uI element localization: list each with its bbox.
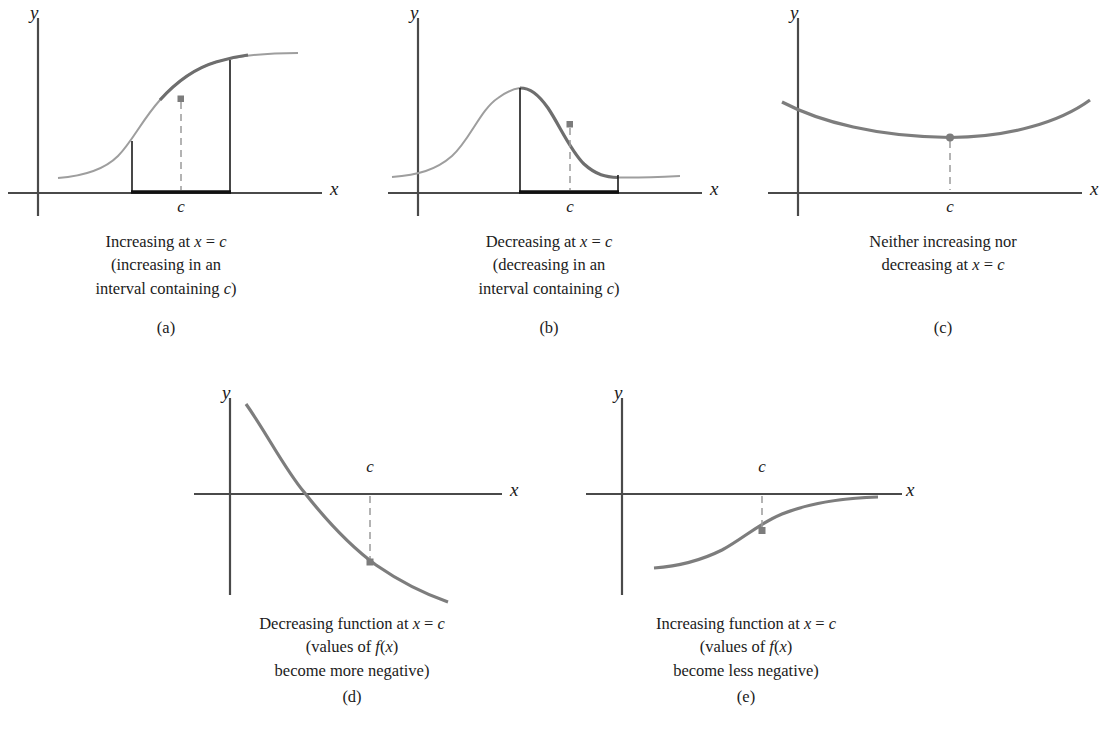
c-label: c bbox=[752, 457, 772, 477]
curve-parabola bbox=[782, 100, 1090, 138]
panel-e: y x c Increasing function at x = c (valu… bbox=[572, 380, 952, 743]
x-axis-label: x bbox=[710, 178, 718, 200]
c-label: c bbox=[940, 197, 960, 217]
curve-increasing bbox=[654, 497, 878, 568]
curve-bold-segment bbox=[160, 55, 248, 100]
point-marker bbox=[946, 134, 954, 142]
panel-a-caption: Increasing at x = c (increasing in an in… bbox=[36, 230, 296, 300]
panel-d-letter: (d) bbox=[322, 687, 382, 707]
x-axis-label: x bbox=[330, 178, 338, 200]
y-axis-label: y bbox=[410, 2, 418, 24]
x-axis-label: x bbox=[1090, 178, 1098, 200]
panel-e-letter: (e) bbox=[716, 687, 776, 707]
panel-a: y x c Increasing at x = c (increasing in… bbox=[0, 0, 372, 345]
panel-b-caption: Decreasing at x = c (decreasing in an in… bbox=[418, 230, 680, 300]
c-label: c bbox=[171, 197, 191, 217]
y-axis-label: y bbox=[790, 2, 798, 24]
panel-c-plot bbox=[760, 0, 1119, 225]
panel-d: y x c Decreasing function at x = c (valu… bbox=[180, 380, 560, 743]
point-marker bbox=[759, 527, 766, 534]
panel-b-plot bbox=[380, 0, 752, 225]
curve-light-left bbox=[392, 88, 520, 177]
c-label: c bbox=[560, 197, 580, 217]
panel-e-caption: Increasing function at x = c (values of … bbox=[596, 612, 896, 682]
point-marker bbox=[367, 559, 374, 566]
figure-root: y x c Increasing at x = c (increasing in… bbox=[0, 0, 1119, 743]
point-marker bbox=[567, 121, 574, 128]
curve-decreasing bbox=[246, 404, 448, 602]
panel-c: y x c Neither increasing nor decreasing … bbox=[760, 0, 1119, 345]
point-marker bbox=[178, 96, 185, 103]
panel-c-caption: Neither increasing nor decreasing at x =… bbox=[818, 230, 1068, 277]
panel-b: y x c Decreasing at x = c (decreasing in… bbox=[380, 0, 752, 345]
panel-d-plot bbox=[180, 380, 560, 610]
c-label: c bbox=[360, 457, 380, 477]
curve-light-right bbox=[618, 176, 680, 178]
panel-a-plot bbox=[0, 0, 372, 225]
y-axis-label: y bbox=[30, 2, 38, 24]
y-axis-label: y bbox=[614, 382, 622, 404]
panel-a-letter: (a) bbox=[136, 318, 196, 338]
curve-light bbox=[58, 53, 298, 178]
x-axis-label: x bbox=[906, 479, 914, 501]
panel-e-plot bbox=[572, 380, 952, 610]
panel-b-letter: (b) bbox=[519, 318, 579, 338]
panel-c-letter: (c) bbox=[913, 318, 973, 338]
curve-bold-segment bbox=[520, 88, 618, 178]
y-axis-label: y bbox=[222, 382, 230, 404]
panel-d-caption: Decreasing function at x = c (values of … bbox=[202, 612, 502, 682]
x-axis-label: x bbox=[510, 479, 518, 501]
